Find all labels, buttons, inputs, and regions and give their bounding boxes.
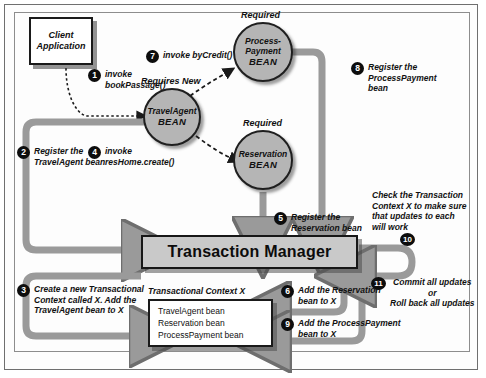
step-11-bullet: 11 — [371, 277, 386, 290]
step-6-bullet: 6 — [281, 285, 294, 298]
step-3: 3 Create a new Transactional Context cal… — [17, 284, 144, 316]
transaction-manager-label: Transaction Manager — [168, 243, 332, 261]
step-4-bullet: 4 — [88, 146, 101, 159]
step-11-text: Commit all updates or Roll back all upda… — [390, 277, 475, 309]
arrow-step-10-11 — [359, 248, 412, 276]
step-6: 6 Add the Reservation bean to X — [281, 285, 381, 306]
bean-travelagent-name: TravelAgent — [148, 107, 197, 117]
step-7-text: invoke byCredit() — [163, 50, 232, 61]
bean-reservation-name: Reservation — [239, 150, 288, 160]
bean-travelagent-type: BEAN — [158, 116, 186, 127]
step-1-bullet: 1 — [88, 69, 101, 82]
step-7-bullet: 7 — [146, 50, 159, 63]
context-item: TravelAgent bean — [158, 305, 271, 317]
step-4-text: invoke resHome.create() — [105, 146, 174, 167]
step-1-text: invoke bookPassage() — [105, 69, 165, 90]
step-5: 5 Register the Reservation bean — [274, 212, 362, 233]
bean-reservation: Reservation BEAN — [233, 130, 293, 190]
transactional-context-box: TravelAgent bean Reservation bean Proces… — [148, 299, 273, 347]
step-1: 1 invoke bookPassage() — [88, 69, 165, 90]
arrow-step-4 — [196, 136, 231, 158]
step-5-bullet: 5 — [274, 212, 287, 225]
bean-processpayment-name-2: Payment — [245, 47, 280, 57]
client-application-box: ClientApplication — [29, 17, 93, 65]
step-11: 11 Commit all updates or Roll back all u… — [371, 277, 475, 309]
diagram-canvas: ClientApplication Requires New TravelAge… — [0, 0, 486, 378]
arrow-step-8 — [291, 52, 322, 226]
step-8-text: Register the ProcessPayment bean — [368, 62, 486, 94]
step-7: 7 invoke byCredit() — [146, 50, 232, 63]
bean-reservation-type: BEAN — [249, 159, 277, 170]
step-4: 4 invoke resHome.create() — [88, 146, 174, 167]
bean-processpayment: Process- Payment BEAN — [233, 22, 293, 82]
bean-processpayment-type: BEAN — [249, 56, 277, 67]
context-item: Reservation bean — [158, 317, 271, 329]
step-9-text: Add the ProcessPayment bean to X — [298, 318, 401, 339]
bean-travelagent: TravelAgent BEAN — [143, 88, 201, 146]
transaction-manager-bar: Transaction Manager — [141, 235, 358, 269]
step-5-text: Register the Reservation bean — [291, 212, 362, 233]
step-10-text: Check the Transaction Context X to make … — [372, 190, 466, 232]
step-10-bullet: 10 — [400, 233, 415, 246]
step-2-bullet: 2 — [17, 146, 30, 159]
step-9: 9 Add the ProcessPayment bean to X — [281, 318, 401, 339]
processpayment-attribute-label: Required — [241, 10, 280, 20]
step-10: Check the Transaction Context X to make … — [372, 190, 466, 246]
step-6-text: Add the Reservation bean to X — [298, 285, 381, 306]
step-3-text: Create a new Transactional Context calle… — [34, 284, 144, 316]
step-3-bullet: 3 — [17, 284, 30, 297]
step-8: 8 Register the ProcessPayment bean — [351, 62, 486, 94]
step-9-bullet: 9 — [281, 318, 294, 331]
transactional-context-caption: Transactional Context X — [148, 286, 245, 296]
arrow-step-2 — [26, 122, 150, 250]
reservation-attribute-label: Required — [243, 118, 282, 128]
client-application-label: ClientApplication — [37, 30, 86, 52]
step-8-bullet: 8 — [351, 62, 364, 75]
context-item: ProcessPayment bean — [158, 329, 271, 341]
